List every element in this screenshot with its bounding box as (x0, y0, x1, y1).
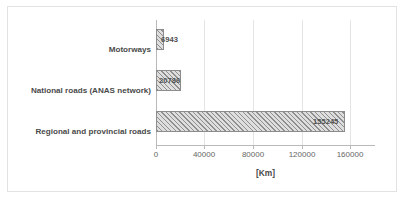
axis-tick (350, 145, 351, 149)
x-axis-title: [Km] (156, 168, 375, 178)
category-label: Motorways (7, 45, 151, 55)
axis-tick (302, 145, 303, 149)
category-axis-labels: Motorways National roads (ANAS network) … (8, 20, 154, 145)
bar-value-label: 155245 (313, 117, 338, 126)
category-label: National roads (ANAS network) (7, 86, 151, 96)
category-axis-line (156, 145, 375, 146)
x-tick-label: 160000 (337, 150, 364, 159)
value-axis-tick-labels: 0 40000 80000 120000 160000 (156, 150, 386, 162)
x-tick-label: 40000 (193, 150, 215, 159)
axis-tick (156, 145, 157, 149)
axis-tick (253, 145, 254, 149)
x-tick-label: 80000 (242, 150, 264, 159)
x-tick-label: 120000 (289, 150, 316, 159)
axis-tick (204, 145, 205, 149)
chart-figure: Motorways National roads (ANAS network) … (0, 0, 405, 199)
bar-value-label: 20786 (159, 76, 180, 85)
plot-area: 6943 20786 155245 (156, 20, 375, 145)
category-label: Regional and provincial roads (7, 127, 151, 137)
bar-value-label: 6943 (161, 35, 178, 44)
x-tick-label: 0 (154, 150, 158, 159)
gridline (350, 20, 351, 145)
